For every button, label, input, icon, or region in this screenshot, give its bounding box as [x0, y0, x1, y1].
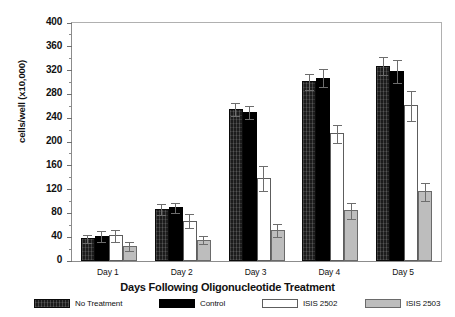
y-axis-minor-tick — [69, 34, 72, 35]
bar-2502-2 — [183, 221, 197, 261]
chart-legend: No TreatmentControlISIS 2502ISIS 2503 — [34, 299, 434, 313]
y-axis-tick — [67, 165, 72, 166]
y-axis-tick-label: 0 — [22, 255, 62, 265]
error-bar-cap-top — [157, 204, 166, 205]
error-bar-cap-bottom — [347, 219, 356, 220]
error-bar-cap-bottom — [421, 201, 430, 202]
legend-swatch-control — [159, 299, 195, 308]
y-axis-tick — [67, 237, 72, 238]
y-axis-tick — [67, 261, 72, 262]
error-bar-2502-3 — [263, 166, 264, 192]
y-axis-minor-tick — [69, 153, 72, 154]
y-axis-tick-label: 200 — [22, 136, 62, 146]
error-bar-2502-2 — [189, 214, 190, 229]
error-bar-2502-4 — [337, 125, 338, 144]
error-bar-cap-top — [199, 236, 208, 237]
x-axis-tick-label: Day 5 — [363, 267, 443, 277]
bar-control-1 — [95, 236, 109, 261]
y-axis-minor-tick — [69, 249, 72, 250]
legend-label-notreatment: No Treatment — [75, 299, 122, 308]
y-axis-minor-tick — [69, 82, 72, 83]
bar-group — [81, 23, 137, 261]
y-axis-minor-tick — [69, 106, 72, 107]
error-bar-cap-top — [273, 224, 282, 225]
error-bar-cap-top — [125, 242, 134, 243]
error-bar-2502-1 — [115, 230, 116, 243]
bar-group — [302, 23, 358, 261]
error-bar-cap-top — [111, 230, 120, 231]
y-axis-tick — [67, 213, 72, 214]
error-bar-cap-bottom — [379, 75, 388, 76]
x-axis-tick-label: Day 2 — [142, 267, 222, 277]
error-bar-cap-bottom — [259, 191, 268, 192]
bar-control-3 — [243, 112, 257, 261]
y-axis-tick — [67, 46, 72, 47]
bar-notreatment-2 — [155, 209, 169, 261]
bar-notreatment-4 — [302, 81, 316, 261]
bar-notreatment-3 — [229, 109, 243, 261]
bar-notreatment-5 — [376, 66, 390, 261]
x-axis-tick-label: Day 4 — [289, 267, 369, 277]
x-axis-tick-label: Day 1 — [68, 267, 148, 277]
y-axis-tick-label: 280 — [22, 88, 62, 98]
bar-control-4 — [316, 78, 330, 261]
y-axis-minor-tick — [69, 201, 72, 202]
bar-2503-3 — [271, 230, 285, 261]
error-bar-control-5 — [397, 60, 398, 84]
plot-inner — [72, 23, 441, 261]
error-bar-cap-bottom — [245, 119, 254, 120]
error-bar-cap-bottom — [199, 244, 208, 245]
error-bar-cap-bottom — [111, 242, 120, 243]
y-axis-tick — [67, 70, 72, 71]
bar-2503-2 — [197, 240, 211, 261]
bar-2502-1 — [109, 235, 123, 261]
error-bar-2503-5 — [425, 183, 426, 202]
error-bar-control-2 — [175, 203, 176, 215]
bar-2503-5 — [418, 191, 432, 261]
error-bar-notreatment-2 — [161, 204, 162, 216]
error-bar-2503-1 — [129, 242, 130, 253]
y-axis-tick — [67, 94, 72, 95]
bar-group — [155, 23, 211, 261]
bar-2502-5 — [404, 105, 418, 261]
error-bar-cap-top — [305, 74, 314, 75]
legend-item-2502: ISIS 2502 — [262, 299, 337, 308]
error-bar-notreatment-3 — [235, 103, 236, 117]
error-bar-cap-bottom — [171, 213, 180, 214]
error-bar-notreatment-4 — [309, 74, 310, 91]
error-bar-cap-top — [259, 166, 268, 167]
error-bar-control-3 — [249, 106, 250, 120]
error-bar-cap-bottom — [125, 251, 134, 252]
error-bar-cap-top — [333, 125, 342, 126]
bar-2503-4 — [344, 210, 358, 261]
bar-2503-1 — [123, 246, 137, 261]
y-axis-tick — [67, 23, 72, 24]
x-axis-tick-label: Day 3 — [216, 267, 296, 277]
error-bar-cap-top — [379, 57, 388, 58]
error-bar-control-1 — [101, 231, 102, 243]
error-bar-cap-top — [347, 203, 356, 204]
bar-2502-3 — [257, 178, 271, 261]
error-bar-cap-bottom — [231, 116, 240, 117]
error-bar-control-4 — [323, 69, 324, 88]
error-bar-cap-top — [421, 183, 430, 184]
legend-item-control: Control — [159, 299, 225, 308]
x-axis-title: Days Following Oligonucleotide Treatment — [0, 281, 455, 293]
error-bar-cap-top — [393, 60, 402, 61]
bar-notreatment-1 — [81, 238, 95, 261]
legend-item-notreatment: No Treatment — [34, 299, 122, 308]
error-bar-cap-top — [319, 69, 328, 70]
error-bar-2503-3 — [277, 224, 278, 238]
error-bar-cap-bottom — [83, 243, 92, 244]
bar-2502-4 — [330, 133, 344, 261]
y-axis-tick-label: 40 — [22, 231, 62, 241]
y-axis-tick — [67, 142, 72, 143]
error-bar-notreatment-5 — [383, 57, 384, 76]
error-bar-cap-top — [97, 231, 106, 232]
y-axis-tick-label: 320 — [22, 65, 62, 75]
y-axis-minor-tick — [69, 130, 72, 131]
y-axis-tick-label: 360 — [22, 41, 62, 51]
error-bar-2503-4 — [351, 203, 352, 221]
error-bar-cap-bottom — [319, 87, 328, 88]
error-bar-cap-bottom — [333, 143, 342, 144]
